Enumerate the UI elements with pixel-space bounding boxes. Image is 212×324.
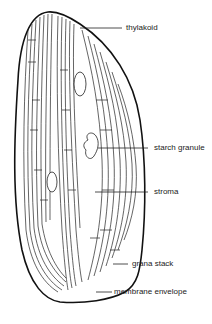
chloroplast-diagram (0, 0, 212, 324)
label-starch-granule: starch granule (154, 143, 205, 153)
starch-granule-shape (47, 172, 57, 192)
starch-granule-shape (74, 72, 86, 96)
label-membrane-envelope: membrane envelope (114, 287, 187, 297)
label-stroma: stroma (154, 187, 178, 197)
label-grana-stack: grana stack (132, 259, 173, 269)
starch-granule-shape (84, 133, 98, 158)
label-thylakoid: thylakoid (126, 23, 158, 33)
